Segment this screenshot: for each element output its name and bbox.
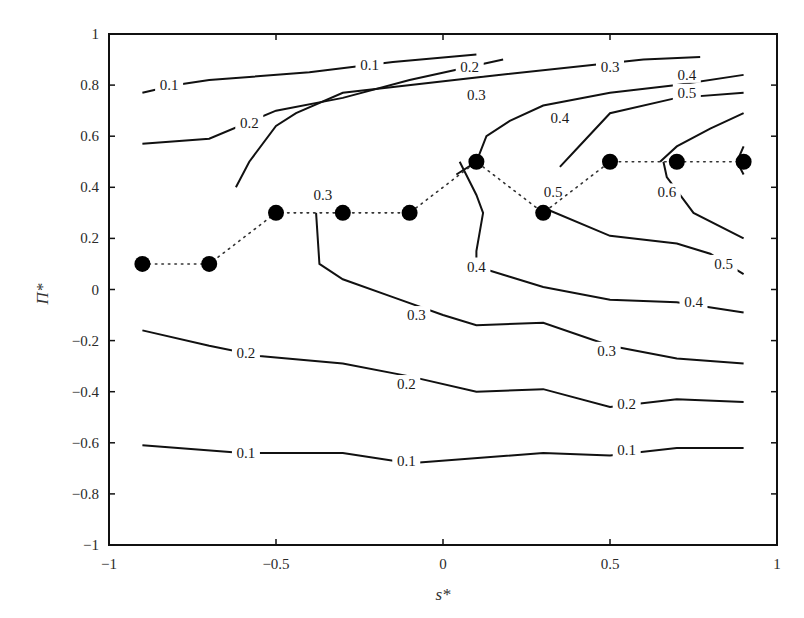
y-axis-title: Π* [33,283,52,305]
path-marker [468,154,484,170]
contour-label: 0.3 [313,187,332,203]
path-marker [602,154,618,170]
contour-label: 0.1 [360,57,379,73]
contour-label: 0.2 [617,396,636,412]
contour-label: 0.1 [617,442,636,458]
contour-label: 0.4 [677,67,696,83]
contour-line-0.4 [460,162,744,313]
x-tick-label: −1 [101,556,117,572]
path-marker [736,154,752,170]
contour-label: 0.3 [467,87,486,103]
contour-chart: 0.10.10.20.20.30.30.40.50.40.30.50.60.40… [0,0,804,618]
y-tick-label: 0.6 [80,128,99,144]
contour-label: 0.6 [657,184,676,200]
contour-label: 0.5 [544,184,563,200]
y-tick-label: −0.8 [72,486,99,502]
contour-label: 0.1 [160,77,179,93]
contour-label: 0.2 [460,59,479,75]
x-axis-title: s* [435,585,451,604]
path-marker [402,205,418,221]
y-tick-label: 1 [92,26,100,42]
path-marker [669,154,685,170]
optimal-path-markers [134,154,751,272]
contour-line-0.3 [316,213,744,364]
x-tick-label: −0.5 [262,556,289,572]
contour-label: 0.1 [237,445,256,461]
y-tick-label: −0.4 [72,384,100,400]
contour-label: 0.4 [551,110,570,126]
path-dotted-line [142,162,743,264]
contour-label: 0.2 [237,345,256,361]
contour-label: 0.4 [467,259,486,275]
path-marker [335,205,351,221]
contour-line-0.2 [142,330,743,407]
y-tick-label: −0.2 [72,333,99,349]
optimal-path-line [142,162,743,264]
contour-label: 0.4 [684,294,703,310]
y-tick-label: 0.4 [80,179,99,195]
y-tick-label: 0 [92,282,100,298]
contour-line-0.1 [142,54,476,92]
y-tick-label: 0.8 [80,77,99,93]
path-marker [268,205,284,221]
x-tick-label: 1 [773,556,781,572]
y-tick-label: −1 [83,537,99,553]
contour-lines [142,54,743,463]
contour-line-0.6 [660,113,744,162]
contour-line-0.5 [560,93,744,167]
contour-label: 0.5 [677,85,696,101]
contour-label: 0.3 [407,307,426,323]
contour-label: 0.2 [240,115,259,131]
contour-label: 0.5 [714,256,733,272]
y-tick-label: 0.2 [80,230,99,246]
contour-label: 0.3 [601,59,620,75]
x-tick-label: 0.5 [601,556,620,572]
x-tick-label: 0 [439,556,447,572]
contour-labels: 0.10.10.20.20.30.30.40.50.40.30.50.60.40… [155,56,737,469]
path-marker [201,256,217,272]
contour-label: 0.2 [397,376,416,392]
path-marker [535,205,551,221]
y-axis-ticks: −1−0.8−0.6−0.4−0.200.20.40.60.81 [72,26,777,553]
contour-label: 0.3 [597,343,616,359]
y-tick-label: −0.6 [72,435,100,451]
plot-frame [109,34,777,545]
path-marker [134,256,150,272]
contour-label: 0.1 [397,453,416,469]
